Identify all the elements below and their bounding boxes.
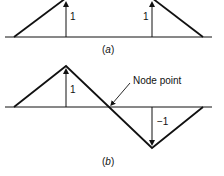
arrow-label-up-b: 1	[70, 85, 76, 95]
arrow-label-right-a: 1	[143, 12, 149, 22]
caption-a: (a)	[102, 45, 114, 55]
right-triangle-a	[152, 0, 203, 37]
arrow-label-down-b: −1	[157, 117, 168, 127]
arrow-label-left-a: 1	[70, 12, 76, 22]
node-pointer	[112, 83, 130, 104]
node-point-label: Node point	[133, 76, 181, 86]
figure-a	[5, 0, 212, 37]
caption-b: (b)	[102, 157, 114, 167]
diagram-canvas	[0, 0, 224, 176]
left-triangle-a	[14, 0, 66, 37]
